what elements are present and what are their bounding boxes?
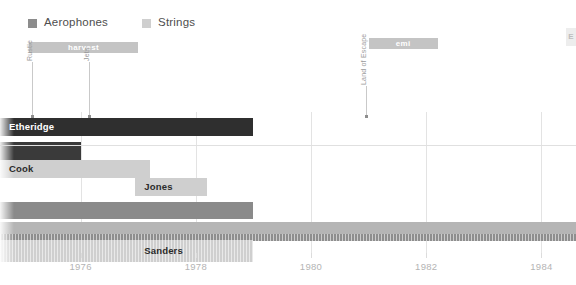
annotation-pin-rustle[interactable]: Rustle (32, 62, 33, 118)
edge-overflow-marker-label: E (568, 33, 573, 41)
bar-cook[interactable]: Cook (0, 160, 150, 178)
timeline-chart: Aerophones Strings harvest emi Rustle Je… (0, 0, 576, 285)
legend-label-aerophones: Aerophones (44, 17, 108, 29)
legend-item-strings[interactable]: Strings (142, 17, 195, 29)
chart-legend: Aerophones Strings (28, 16, 195, 30)
x-tick-mark (311, 253, 312, 258)
annotation-pin-jets[interactable]: Jets (89, 62, 90, 118)
legend-swatch-aerophones (28, 19, 37, 28)
bar-label: Sanders (0, 246, 183, 256)
annotation-label-jets: Jets (83, 47, 90, 62)
annotation-label-land-of-escape: Land of Escape (360, 34, 367, 86)
plot-area: EtheridgeCookJonesSanders (0, 112, 576, 257)
legend-swatch-strings (142, 19, 151, 28)
bar-sanders[interactable]: Sanders (0, 240, 253, 262)
bar-label: Etheridge (0, 122, 54, 132)
bar-row-4[interactable] (0, 202, 253, 219)
x-tick-label: 1984 (530, 262, 552, 272)
bar-label: Jones (135, 182, 172, 192)
era-band-emi[interactable]: emi (369, 38, 438, 49)
x-tick-mark (426, 253, 427, 258)
annotation-label-rustle: Rustle (26, 40, 33, 62)
legend-item-aerophones[interactable]: Aerophones (28, 17, 108, 29)
legend-label-strings: Strings (158, 17, 195, 29)
x-tick-label: 1982 (415, 262, 437, 272)
x-tick-mark (541, 253, 542, 258)
bar-etheridge[interactable]: Etheridge (0, 118, 253, 136)
bar-jones[interactable]: Jones (135, 178, 207, 196)
x-tick-mark (196, 253, 197, 258)
x-axis-line (0, 145, 576, 146)
era-band-label-emi: emi (396, 40, 411, 48)
bar-left-fade (0, 202, 14, 219)
x-tick-label: 1976 (69, 262, 91, 272)
x-tick-label: 1978 (185, 262, 207, 272)
x-tick-label: 1980 (300, 262, 322, 272)
edge-overflow-marker[interactable]: E (566, 28, 576, 46)
bar-label: Cook (0, 164, 33, 174)
